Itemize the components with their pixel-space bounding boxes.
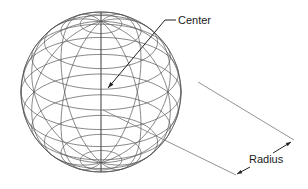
radius-dimension: Radius [103,82,294,175]
sphere-diagram: Center Radius [0,0,308,189]
meridian-line [61,14,101,162]
center-label: Center [178,14,211,26]
meridian-line [101,21,141,169]
wireframe-sphere [21,12,181,172]
arrowhead-icon [237,170,242,174]
arrowhead-icon [286,142,291,146]
radius-extension-line-upper [198,82,294,140]
meridian-line [101,14,141,162]
radius-label: Radius [249,153,284,165]
meridian-line [61,21,101,169]
center-callout: Center [108,14,211,88]
